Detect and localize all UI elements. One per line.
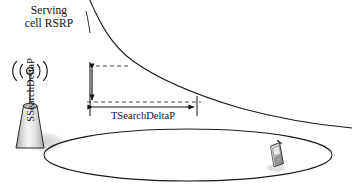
serving-cell-rsrp-label-line2: cell RSRP bbox=[25, 17, 74, 29]
mobile-phone-icon bbox=[271, 141, 284, 167]
rsrp-curve bbox=[89, 0, 352, 128]
coverage-area-ellipse bbox=[44, 129, 332, 181]
tsearch-deltap-label: TSearchDeltaP bbox=[96, 110, 190, 122]
ssearch-deltap-label: SSearchDeltaP bbox=[25, 38, 37, 142]
rsrp-diagram: Serving cell RSRP SSearchDeltaP TSearchD… bbox=[0, 0, 352, 188]
serving-cell-rsrp-label: Serving cell RSRP bbox=[10, 4, 88, 30]
serving-cell-rsrp-label-line1: Serving bbox=[31, 4, 67, 16]
